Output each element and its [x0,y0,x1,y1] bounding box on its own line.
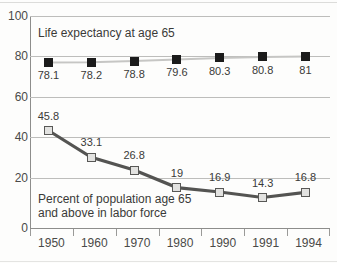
labor-force-caption-line2: and above in labor force [38,206,167,220]
life-expectancy-caption: Life expectancy at age 65 [38,26,175,40]
chart-figure: 100 80 60 40 20 0 78.1 78.2 78.8 79.6 [0,0,337,263]
data-point-labor-1994 [301,188,310,197]
x-tick-label-1950: 1950 [30,236,73,250]
data-label-life-1994: 81 [299,65,311,76]
x-axis-separator [244,229,245,236]
data-label-labor-1994: 16.8 [295,172,316,183]
x-tick-label-1980: 1980 [159,236,202,250]
data-point-life-1991 [258,52,267,61]
data-label-life-1980: 79.6 [166,67,187,78]
data-label-labor-1980: 19 [171,168,183,179]
data-point-life-1990 [215,53,224,62]
x-axis-separator [159,229,160,236]
data-point-life-1994 [301,52,310,61]
data-point-labor-1991 [258,193,267,202]
data-point-life-1980 [172,55,181,64]
y-tick-label: 20 [2,172,28,184]
page-top-rule [0,2,337,3]
y-tick-label: 0 [2,222,28,234]
x-tick-label-1970: 1970 [116,236,159,250]
x-axis-separator [201,229,202,236]
x-axis-separator [287,229,288,236]
x-tick-label-1994: 1994 [287,236,330,250]
data-point-life-1970 [130,57,139,66]
x-axis-separator [73,229,74,236]
x-axis-separator [329,229,330,236]
x-axis-labels: 1950 1960 1970 1980 1990 1991 1994 [30,236,330,258]
x-axis-line [30,228,330,229]
data-label-life-1960: 78.2 [81,70,102,81]
y-tick-label: 60 [2,91,28,103]
data-label-labor-1970: 26.8 [123,150,144,161]
y-tick-label: 100 [2,10,28,22]
data-label-labor-1950: 45.8 [38,111,59,122]
page-bottom-rule [0,261,337,262]
labor-force-caption: Percent of population age 65 and above i… [38,192,191,220]
x-axis-separator [30,229,31,236]
data-label-life-1970: 78.8 [123,69,144,80]
y-tick-label: 40 [2,131,28,143]
data-label-labor-1990: 16.9 [209,172,230,183]
data-label-labor-1991: 14.3 [252,178,273,189]
x-axis-separator [116,229,117,236]
data-point-labor-1950 [44,126,53,135]
x-tick-label-1990: 1990 [201,236,244,250]
data-point-labor-1970 [130,166,139,175]
data-point-labor-1960 [87,153,96,162]
data-label-life-1990: 80.3 [209,66,230,77]
data-label-labor-1960: 33.1 [81,137,102,148]
y-tick-label: 80 [2,50,28,62]
data-point-life-1960 [87,58,96,67]
x-tick-label-1960: 1960 [73,236,116,250]
data-point-labor-1990 [215,188,224,197]
data-point-labor-1980 [172,183,181,192]
data-label-life-1950: 78.1 [38,70,59,81]
x-tick-label-1991: 1991 [244,236,287,250]
data-point-life-1950 [44,58,53,67]
labor-force-caption-line1: Percent of population age 65 [38,192,191,206]
data-label-life-1991: 80.8 [252,65,273,76]
